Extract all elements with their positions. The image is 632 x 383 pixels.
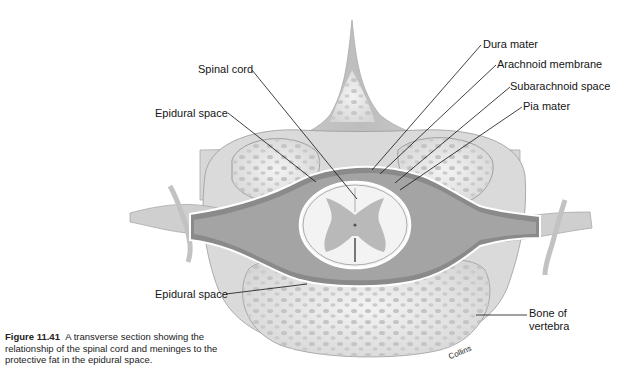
label-bone-of-vertebra-line2: vertebra (529, 320, 569, 333)
label-dura-mater: Dura mater (483, 38, 538, 51)
label-pia-mater: Pia mater (523, 100, 570, 113)
figure-caption: Figure 11.41 A transverse section showin… (5, 331, 220, 366)
label-bone-of-vertebra-line1: Bone of (529, 307, 569, 320)
label-arachnoid-membrane: Arachnoid membrane (497, 58, 602, 71)
label-epidural-space-lower: Epidural space (155, 288, 228, 301)
label-subarachnoid-space: Subarachnoid space (510, 80, 610, 93)
label-spinal-cord: Spinal cord (198, 63, 253, 76)
figure-number: Figure 11.41 (5, 331, 60, 342)
label-bone-of-vertebra: Bone of vertebra (529, 307, 569, 333)
label-epidural-space-upper: Epidural space (155, 107, 228, 120)
spinal-cord (300, 182, 410, 268)
